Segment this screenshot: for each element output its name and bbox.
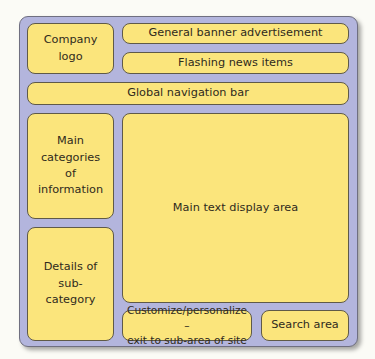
subcategory-details-region: Details of sub- category bbox=[27, 227, 114, 341]
subcategory-details-label-line2: category bbox=[31, 292, 110, 308]
subcategory-details-label-line1: Details of sub- bbox=[31, 259, 110, 292]
main-categories-label-line1: Main categories bbox=[31, 133, 110, 166]
customize-label-line1: Customize/personalize – bbox=[126, 303, 248, 333]
main-categories-label-line2: of information bbox=[31, 166, 110, 199]
global-navigation-label: Global navigation bar bbox=[127, 85, 249, 101]
customize-label-line2: exit to sub-area of site bbox=[126, 333, 248, 348]
global-navigation-region: Global navigation bar bbox=[27, 82, 349, 105]
main-text-display-region: Main text display area bbox=[122, 113, 349, 303]
flashing-news-region: Flashing news items bbox=[122, 52, 349, 74]
company-logo-label-line2: logo bbox=[44, 49, 98, 65]
main-text-display-label: Main text display area bbox=[173, 200, 298, 216]
company-logo-label-line1: Company bbox=[44, 32, 98, 48]
search-area-label: Search area bbox=[271, 317, 339, 333]
customize-personalize-region: Customize/personalize – exit to sub-area… bbox=[122, 310, 252, 341]
search-area-region: Search area bbox=[261, 310, 349, 341]
page-layout-panel: Company logo General banner advertisemen… bbox=[19, 16, 358, 347]
flashing-news-label: Flashing news items bbox=[178, 55, 293, 71]
banner-advertisement-label: General banner advertisement bbox=[148, 25, 322, 41]
banner-advertisement-region: General banner advertisement bbox=[122, 23, 349, 44]
company-logo-region: Company logo bbox=[27, 23, 114, 74]
main-categories-region: Main categories of information bbox=[27, 113, 114, 219]
